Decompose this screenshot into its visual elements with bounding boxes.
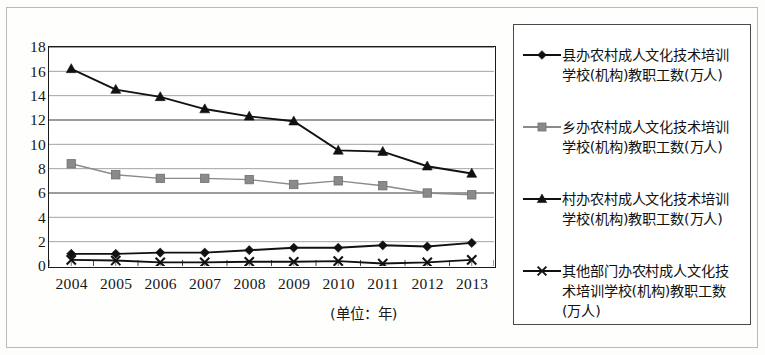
plot-area <box>48 46 496 268</box>
legend-diamond-icon <box>522 47 562 63</box>
x-tick-label: 2006 <box>145 276 177 292</box>
x-tick-label: 2013 <box>456 276 488 292</box>
legend-triangle-icon <box>522 191 562 207</box>
chart-legend: 县办农村成人文化技术培训 学校(机构)教职工数(万人)乡办农村成人文化技术培训 … <box>513 24 751 325</box>
y-tick-label: 14 <box>2 88 46 104</box>
y-tick-label: 12 <box>2 112 46 128</box>
chart-panel: 181614121086420 200420052006200720082009… <box>0 0 510 355</box>
x-tick-label: 2010 <box>323 276 355 292</box>
legend-label: 乡办农村成人文化技术培训 学校(机构)教职工数(万人) <box>562 117 729 157</box>
legend-item[interactable]: 乡办农村成人文化技术培训 学校(机构)教职工数(万人) <box>522 117 746 157</box>
y-tick-label: 6 <box>2 185 46 201</box>
plot-svg <box>49 47 494 266</box>
y-tick-label: 8 <box>2 161 46 177</box>
legend-label: 村办农村成人文化技术培训 学校(机构)教职工数(万人) <box>562 189 729 229</box>
y-tick-label: 0 <box>2 258 46 274</box>
legend-square-icon <box>522 119 562 135</box>
legend-item[interactable]: 县办农村成人文化技术培训 学校(机构)教职工数(万人) <box>522 45 746 85</box>
chart-figure: 181614121086420 200420052006200720082009… <box>0 0 765 355</box>
legend-item[interactable]: 村办农村成人文化技术培训 学校(机构)教职工数(万人) <box>522 189 746 229</box>
x-tick-label: 2005 <box>100 276 132 292</box>
legend-label: 其他部门办农村成人文化技 术培训学校(机构)教职工数 (万人) <box>562 261 729 321</box>
y-axis-tick-labels: 181614121086420 <box>0 0 46 355</box>
legend-label: 县办农村成人文化技术培训 学校(机构)教职工数(万人) <box>562 45 729 85</box>
y-tick-label: 10 <box>2 137 46 153</box>
y-tick-label: 2 <box>2 234 46 250</box>
y-tick-label: 16 <box>2 64 46 80</box>
x-tick-label: 2004 <box>56 276 88 292</box>
x-tick-label: 2009 <box>278 276 310 292</box>
legend-cross-icon <box>522 263 562 279</box>
legend-item[interactable]: 其他部门办农村成人文化技 术培训学校(机构)教职工数 (万人) <box>522 261 746 321</box>
x-tick-label: 2011 <box>367 276 399 292</box>
x-tick-label: 2012 <box>412 276 444 292</box>
x-axis-tick-labels: 2004200520062007200820092010201120122013 <box>48 276 496 300</box>
x-tick-label: 2008 <box>234 276 266 292</box>
y-tick-label: 4 <box>2 210 46 226</box>
y-tick-label: 18 <box>2 39 46 55</box>
x-axis-unit-label: (单位：年) <box>330 302 397 323</box>
x-tick-label: 2007 <box>189 276 221 292</box>
